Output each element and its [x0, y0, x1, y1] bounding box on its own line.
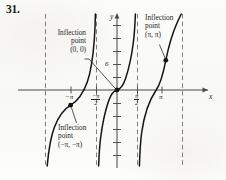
inflection-dot-pi-pi	[163, 58, 168, 63]
inflection-dot-neg-pi-neg-pi	[68, 103, 73, 108]
inflection-point-neg-pi-label: Inflection point (−π, −π)	[58, 124, 118, 149]
inflection-pi-line3: (π, π)	[145, 31, 199, 39]
inflection-point-dots	[68, 58, 168, 108]
x-axis-label: x	[209, 92, 212, 101]
x-tick-label-neg-pi: −π	[65, 93, 73, 101]
leader-pi-pi	[159, 45, 165, 59]
y-tick-label-6: 6	[105, 60, 109, 68]
inflection-origin-line3: (0, 0)	[32, 46, 86, 54]
inflection-point-origin-label: Inflection point (0, 0)	[32, 29, 86, 54]
y-axis-arrow	[115, 13, 120, 19]
inflection-point-pi-pi-label: Inflection point (π, π)	[145, 14, 199, 39]
leader-origin	[89, 59, 116, 89]
x-tick-label-pi-over-2: π 2	[134, 93, 139, 107]
x-axis-arrow	[203, 88, 209, 93]
leader-neg-pi	[71, 107, 76, 123]
x-tick-label-pi: π	[159, 93, 163, 101]
frac-den: 2	[134, 99, 139, 106]
frac-den: 2	[91, 99, 100, 106]
frac-pi-over-2: π 2	[134, 93, 139, 107]
frac-neg-pi-over-2: −π 2	[91, 93, 100, 107]
y-axis-label: y	[110, 12, 113, 21]
x-tick-label-neg-pi-over-2: −π 2	[91, 93, 100, 107]
leader-line-group	[71, 45, 165, 124]
inflection-negpi-line3: (−π, −π)	[58, 141, 118, 149]
